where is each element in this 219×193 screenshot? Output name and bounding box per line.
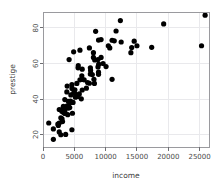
data-point <box>70 100 75 105</box>
data-point <box>51 137 56 142</box>
data-point <box>69 86 74 91</box>
data-point <box>62 97 67 102</box>
data-point <box>118 18 123 23</box>
data-point <box>132 39 137 44</box>
data-point <box>63 132 68 137</box>
data-point <box>93 29 98 34</box>
x-axis-title: income <box>112 171 140 180</box>
data-point <box>88 71 93 76</box>
data-point <box>67 57 72 62</box>
data-point <box>91 55 96 60</box>
data-point <box>96 62 101 67</box>
data-point <box>203 13 208 18</box>
data-point <box>199 43 204 48</box>
y-tick-label: 20 <box>32 130 40 139</box>
x-tick-label: 0 <box>41 153 45 161</box>
data-point <box>58 132 63 137</box>
y-axis-title: prestige <box>8 64 17 95</box>
y-tick-label: 60 <box>32 59 40 68</box>
data-point <box>77 48 82 53</box>
data-point <box>92 81 97 86</box>
data-point <box>56 123 61 128</box>
data-point <box>79 96 84 101</box>
data-point <box>64 89 69 94</box>
data-point <box>112 38 117 43</box>
data-point <box>113 28 118 33</box>
data-point <box>129 45 134 50</box>
x-tick-label: 25000 <box>188 153 210 161</box>
x-tick-label: 20000 <box>157 153 179 161</box>
data-point <box>75 65 80 70</box>
y-tick-label: 40 <box>32 95 40 104</box>
data-point <box>46 120 51 125</box>
data-point <box>96 37 101 42</box>
data-point <box>84 86 89 91</box>
data-point <box>77 91 82 96</box>
data-point <box>70 111 75 116</box>
data-point <box>109 77 114 82</box>
data-point <box>134 43 139 48</box>
x-tick-label: 15000 <box>126 153 148 161</box>
data-point <box>119 39 124 44</box>
data-point <box>149 45 154 50</box>
data-point <box>106 43 111 48</box>
data-point <box>87 45 92 50</box>
data-point <box>69 127 74 132</box>
data-point <box>103 64 108 69</box>
data-point <box>91 50 96 55</box>
data-point <box>96 72 101 77</box>
x-tick-label: 5000 <box>65 153 83 161</box>
data-point <box>74 81 79 86</box>
x-tick-label: 10000 <box>95 153 117 161</box>
data-point <box>65 83 70 88</box>
data-point <box>85 80 90 85</box>
data-point <box>128 50 133 55</box>
data-point <box>161 21 166 26</box>
data-point <box>71 49 76 54</box>
plot-canvas: 0500010000150002000025000 20406080 incom… <box>0 0 219 193</box>
data-point <box>98 55 103 60</box>
data-point <box>65 112 70 117</box>
scatter-plot-figure: 0500010000150002000025000 20406080 incom… <box>0 0 219 193</box>
y-tick-label: 80 <box>32 24 40 33</box>
data-point <box>51 126 56 131</box>
